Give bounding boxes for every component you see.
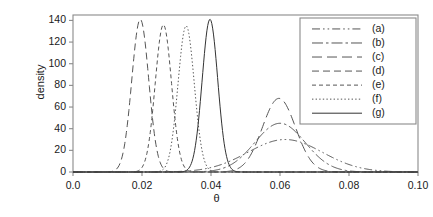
legend-entry-g: (g) — [372, 106, 385, 118]
legend-box — [300, 18, 416, 124]
legend-entry-a: (a) — [372, 22, 385, 34]
x-tick-label: 0.02 — [112, 179, 172, 191]
x-tick-label: 0.06 — [250, 179, 310, 191]
y-tick-label: 80 — [18, 78, 66, 90]
y-tick-label: 100 — [18, 57, 66, 69]
y-tick-label: 60 — [18, 100, 66, 112]
y-tick-label: 0 — [18, 165, 66, 177]
y-tick-label: 40 — [18, 122, 66, 134]
x-tick-label: 0.08 — [319, 179, 379, 191]
legend-entry-e: (e) — [372, 78, 385, 90]
x-tick-label: 0.10 — [388, 179, 433, 191]
density-plot-figure: density θ 0204060801001201400.00.020.040… — [0, 0, 433, 217]
legend-entry-d: (d) — [372, 64, 385, 76]
x-axis-title: θ — [0, 192, 433, 204]
legend-entry-b: (b) — [372, 36, 385, 48]
x-tick-label: 0.0 — [43, 179, 103, 191]
y-tick-label: 20 — [18, 143, 66, 155]
legend-entry-c: (c) — [372, 50, 384, 62]
legend-entry-f: (f) — [372, 92, 382, 104]
y-tick-label: 140 — [18, 13, 66, 25]
y-tick-label: 120 — [18, 35, 66, 47]
x-tick-label: 0.04 — [181, 179, 241, 191]
